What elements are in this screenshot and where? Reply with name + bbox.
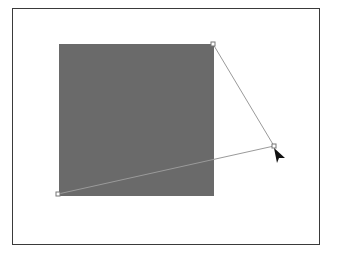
arrow-pointer-icon [274, 148, 285, 163]
anchor-point-bottom-left[interactable] [56, 192, 60, 196]
anchor-point-active[interactable] [272, 144, 276, 148]
drawing-canvas[interactable] [0, 0, 340, 259]
gray-square-shape[interactable] [59, 44, 214, 196]
anchor-point-top-right[interactable] [211, 42, 215, 46]
